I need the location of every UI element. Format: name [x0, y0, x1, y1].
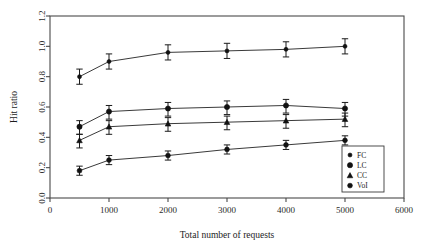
x-tick-label: 2000 [159, 205, 178, 215]
data-point-marker [165, 106, 170, 111]
data-point-marker [284, 47, 288, 51]
legend-label: CC [357, 171, 367, 180]
data-point-marker [343, 138, 348, 143]
y-tick-label: 0.2 [37, 162, 47, 173]
y-tick-label: 1.2 [37, 10, 47, 21]
chart-figure: 0.00.20.40.60.81.01.2 010002000300040005… [0, 0, 424, 250]
data-point-marker [225, 49, 229, 53]
data-point-marker [283, 103, 288, 108]
x-tick-label: 3000 [218, 205, 237, 215]
data-point-marker [225, 147, 230, 152]
chart-background [0, 0, 424, 250]
data-point-marker [224, 104, 229, 109]
data-point-marker [77, 168, 82, 173]
data-point-marker [107, 158, 112, 163]
data-point-marker [77, 124, 82, 129]
data-point-marker [106, 109, 111, 114]
x-tick-label: 6000 [395, 205, 414, 215]
data-point-marker [342, 106, 347, 111]
data-point-marker [107, 60, 111, 64]
legend-label: FC [357, 151, 366, 160]
legend-marker-lc [347, 163, 352, 168]
legend-marker-voi [348, 183, 353, 188]
y-tick-label: 0.6 [37, 101, 47, 113]
y-tick-label: 0.0 [37, 192, 47, 204]
x-tick-label: 1000 [100, 205, 119, 215]
hit-ratio-line-chart: 0.00.20.40.60.81.01.2 010002000300040005… [0, 0, 424, 250]
x-tick-label: 4000 [277, 205, 296, 215]
data-point-marker [343, 44, 347, 48]
chart-legend: FCLCCCVoI [342, 146, 384, 192]
x-tick-label: 5000 [336, 205, 355, 215]
y-tick-label: 0.8 [37, 71, 47, 83]
data-point-marker [284, 143, 289, 148]
legend-label: LC [357, 161, 367, 170]
legend-label: VoI [357, 181, 368, 190]
data-point-marker [166, 153, 171, 158]
legend-marker-fc [348, 153, 352, 157]
x-axis-title: Total number of requests [180, 230, 275, 240]
y-axis-title: Hit ratio [9, 91, 19, 123]
data-point-marker [166, 50, 170, 54]
data-point-marker [78, 75, 82, 79]
x-tick-label: 0 [48, 205, 53, 215]
y-tick-label: 1.0 [37, 40, 47, 52]
y-tick-label: 0.4 [37, 131, 47, 143]
